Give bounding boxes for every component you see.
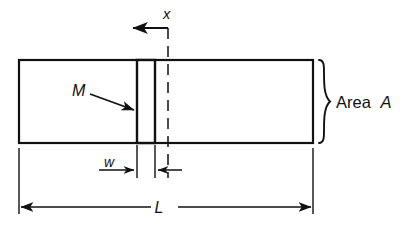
mass-label: M (72, 82, 86, 99)
bar-element-diagram: x M Area A w L (0, 0, 412, 234)
area-label-symbol: A (379, 93, 391, 111)
area-brace (319, 60, 330, 143)
w-label: w (104, 154, 115, 170)
area-label: Area A (336, 93, 391, 111)
bar-outline (19, 60, 313, 143)
area-label-text: Area (336, 93, 372, 111)
slice-element (137, 60, 155, 143)
l-label: L (155, 199, 164, 216)
x-axis-label: x (162, 6, 171, 22)
figure-canvas: x M Area A w L (0, 0, 412, 234)
